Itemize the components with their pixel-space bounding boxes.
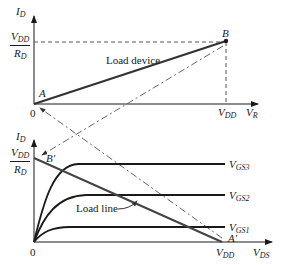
top-x-tick-vdd: VDD [218,107,236,120]
load-device-line [34,41,226,104]
top-y-intercept-label: VDD RD [10,31,30,61]
curve-label-vgs3: VGS3 [229,159,250,172]
point-a-prime-label: A′ [228,233,237,244]
curve-vgs2 [34,195,225,242]
bottom-y-axis-label: ID [16,131,25,144]
top-x-axis-label: VR [246,107,258,120]
top-y-axis-label: ID [16,6,25,19]
point-b-label: B [222,28,229,39]
bottom-y-intercept-label: VDD RD [10,147,30,177]
curve-label-vgs2: VGS2 [229,190,250,203]
bottom-origin-label: 0 [30,247,36,258]
bottom-x-axis-label: VDS [253,247,270,260]
load-device-label: Load device [106,55,160,66]
load-line-label: Load line [76,203,118,214]
dashed-arrow-top-to-aprime [214,48,220,240]
mapping-arrows [40,45,223,240]
point-b-dot [224,39,228,43]
point-b-prime-label: B′ [46,153,55,164]
curve-vgs1 [34,227,225,242]
bottom-x-tick-vdd: VDD [216,247,234,260]
top-origin-label: 0 [30,108,36,119]
point-a-label: A [39,88,46,99]
